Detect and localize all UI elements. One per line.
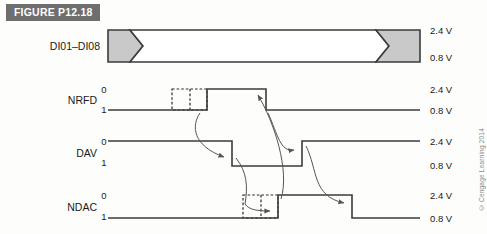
bus-valid-region bbox=[130, 30, 389, 62]
arrow-dav-fall-to-ndac-rise bbox=[245, 204, 270, 211]
waveform-dav bbox=[108, 141, 420, 166]
waveform-row-dav: DAV 0 1 2.4 V 0.8 V bbox=[76, 136, 453, 171]
voltage-label-data-bus-high: 2.4 V bbox=[430, 25, 453, 36]
timing-diagram-svg: DI01–DI08 2.4 V 0.8 V NRFD 0 1 2.4 V 0.8… bbox=[0, 0, 487, 234]
voltage-label-nrfd-low: 0.8 V bbox=[430, 105, 453, 116]
waveform-row-ndac: NDAC 0 1 2.4 V 0.8 V bbox=[67, 190, 453, 224]
arrow-dav-fall-to-ndac-rise-stem bbox=[236, 158, 246, 204]
signal-label-ndac: NDAC bbox=[67, 201, 97, 213]
level-digit-nrfd-bottom: 1 bbox=[101, 104, 106, 115]
level-digit-nrfd-top: 0 bbox=[101, 84, 106, 95]
level-digit-dav-bottom: 1 bbox=[101, 157, 106, 168]
signal-label-data-bus: DI01–DI08 bbox=[50, 40, 100, 52]
arrow-nrfd-fall-to-dav-rise bbox=[268, 113, 294, 150]
level-digit-dav-top: 0 bbox=[101, 136, 106, 147]
voltage-label-ndac-high: 2.4 V bbox=[430, 190, 453, 201]
signal-label-nrfd: NRFD bbox=[68, 94, 98, 106]
voltage-label-ndac-low: 0.8 V bbox=[430, 213, 453, 224]
signal-label-dav: DAV bbox=[76, 147, 97, 159]
level-digit-ndac-bottom: 1 bbox=[101, 211, 106, 222]
voltage-label-nrfd-high: 2.4 V bbox=[430, 84, 453, 95]
copyright-notice: © Cengage Learning 2014 bbox=[478, 128, 485, 211]
voltage-label-dav-high: 2.4 V bbox=[430, 136, 453, 147]
voltage-label-data-bus-low: 0.8 V bbox=[430, 52, 453, 63]
waveform-row-data-bus: DI01–DI08 2.4 V 0.8 V bbox=[50, 25, 453, 63]
level-digit-ndac-top: 0 bbox=[101, 190, 106, 201]
figure-container: FIGURE P12.18 DI01–DI08 2.4 V 0.8 V NRFD… bbox=[0, 0, 487, 234]
voltage-label-dav-low: 0.8 V bbox=[430, 160, 453, 171]
causal-arrow-group bbox=[195, 95, 344, 211]
arrow-nrfd-rise-to-dav-fall bbox=[195, 113, 224, 157]
waveform-ndac bbox=[108, 195, 420, 218]
